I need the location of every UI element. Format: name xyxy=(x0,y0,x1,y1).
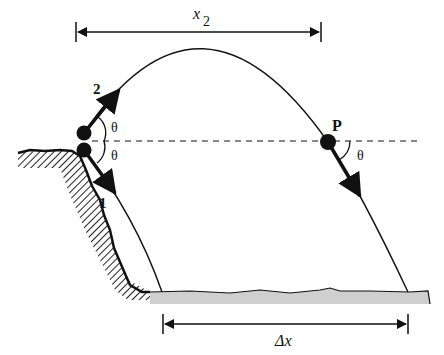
x2-subscript: 2 xyxy=(203,14,210,29)
point-p xyxy=(320,134,336,150)
trajectory-2 xyxy=(84,49,408,292)
cliff-hatch xyxy=(18,150,150,300)
angle-arc-p xyxy=(339,141,350,160)
point-p-label: P xyxy=(332,117,342,134)
theta-upper-label: θ xyxy=(111,120,118,135)
ball-2-label: 2 xyxy=(93,81,101,97)
x2-label: x xyxy=(192,5,200,22)
velocity-arrow-p xyxy=(328,142,360,196)
theta-lower-label: θ xyxy=(111,148,118,163)
ball-1-label: 1 xyxy=(99,195,107,211)
ball-1 xyxy=(77,143,92,158)
angle-arc-lower xyxy=(97,141,105,163)
ball-2 xyxy=(77,126,92,141)
angle-arc-upper xyxy=(98,117,106,141)
theta-p-label: θ xyxy=(357,148,364,163)
ground xyxy=(150,288,430,304)
delta-x-label: Δx xyxy=(274,332,292,349)
projectile-diagram: x 2 2 1 θ θ θ P Δx xyxy=(0,0,444,355)
